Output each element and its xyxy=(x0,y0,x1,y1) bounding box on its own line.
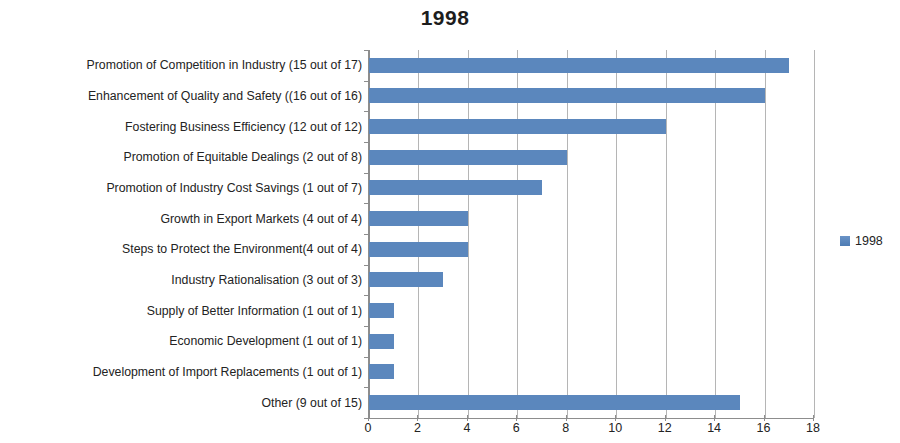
y-tick-mark xyxy=(364,387,369,388)
bar-row xyxy=(369,326,813,357)
y-tick-mark xyxy=(364,173,369,174)
bar[interactable] xyxy=(369,395,740,410)
category-label: Development of Import Replacements (1 ou… xyxy=(0,365,362,379)
y-tick-mark xyxy=(364,50,369,51)
x-axis-line xyxy=(368,418,814,419)
bar-row xyxy=(369,203,813,234)
x-tick-mark-10 xyxy=(615,415,616,421)
category-label: Fostering Business Efficiency (12 out of… xyxy=(0,120,362,134)
bar-row xyxy=(369,357,813,388)
bar[interactable] xyxy=(369,180,542,195)
category-label: Other (9 out of 15) xyxy=(0,396,362,410)
plot-area xyxy=(368,50,813,418)
x-tick-mark-4 xyxy=(467,415,468,421)
y-tick-mark xyxy=(364,111,369,112)
category-label: Supply of Better Information (1 out of 1… xyxy=(0,304,362,318)
category-label: Industry Rationalisation (3 out of 3) xyxy=(0,273,362,287)
legend-swatch-icon xyxy=(840,236,850,246)
bar[interactable] xyxy=(369,88,765,103)
x-tick-mark-14 xyxy=(714,415,715,421)
category-label: Steps to Protect the Environment(4 out o… xyxy=(0,242,362,256)
bar[interactable] xyxy=(369,119,666,134)
gridline-18 xyxy=(814,50,815,418)
x-tick-label-8: 8 xyxy=(562,421,569,435)
bar[interactable] xyxy=(369,211,468,226)
x-tick-mark-8 xyxy=(566,415,567,421)
bar[interactable] xyxy=(369,303,394,318)
y-tick-mark xyxy=(364,142,369,143)
bar-rows xyxy=(369,50,813,418)
x-tick-mark-12 xyxy=(665,415,666,421)
x-tick-label-14: 14 xyxy=(707,421,721,435)
bar[interactable] xyxy=(369,150,567,165)
y-tick-mark xyxy=(364,357,369,358)
category-label: Promotion of Competition in Industry (15… xyxy=(0,58,362,72)
x-axis-tick-labels: 024681012141618 xyxy=(0,421,900,443)
bar[interactable] xyxy=(369,334,394,349)
y-tick-mark xyxy=(364,81,369,82)
bar-row xyxy=(369,265,813,296)
legend: 1998 xyxy=(840,234,883,248)
bar-row xyxy=(369,111,813,142)
x-tick-label-16: 16 xyxy=(757,421,771,435)
category-label: Economic Development (1 out of 1) xyxy=(0,334,362,348)
legend-label: 1998 xyxy=(855,234,883,248)
x-tick-label-2: 2 xyxy=(414,421,421,435)
chart-title: 1998 xyxy=(0,6,900,30)
bar-row xyxy=(369,387,813,418)
bar[interactable] xyxy=(369,364,394,379)
category-label: Promotion of Industry Cost Savings (1 ou… xyxy=(0,181,362,195)
x-tick-label-6: 6 xyxy=(513,421,520,435)
x-tick-mark-0 xyxy=(368,415,369,421)
bar[interactable] xyxy=(369,242,468,257)
y-tick-mark xyxy=(364,265,369,266)
bar-chart: 1998 Promotion of Competition in Industr… xyxy=(0,0,900,443)
bar-row xyxy=(369,81,813,112)
y-tick-mark xyxy=(364,234,369,235)
x-tick-label-18: 18 xyxy=(806,421,820,435)
x-tick-mark-2 xyxy=(417,415,418,421)
bar-row xyxy=(369,173,813,204)
bar-row xyxy=(369,295,813,326)
bar[interactable] xyxy=(369,272,443,287)
bar[interactable] xyxy=(369,58,789,73)
bar-row xyxy=(369,50,813,81)
y-tick-mark xyxy=(364,203,369,204)
chart-title-text: 1998 xyxy=(421,6,470,29)
x-tick-label-10: 10 xyxy=(608,421,622,435)
x-tick-label-4: 4 xyxy=(463,421,470,435)
y-tick-mark xyxy=(364,326,369,327)
x-tick-mark-16 xyxy=(764,415,765,421)
category-label: Promotion of Equitable Dealings (2 out o… xyxy=(0,150,362,164)
x-tick-mark-6 xyxy=(516,415,517,421)
bar-row xyxy=(369,142,813,173)
category-label: Enhancement of Quality and Safety ((16 o… xyxy=(0,89,362,103)
x-tick-label-0: 0 xyxy=(365,421,372,435)
y-tick-mark xyxy=(364,295,369,296)
category-axis-labels: Promotion of Competition in Industry (15… xyxy=(0,50,362,418)
bar-row xyxy=(369,234,813,265)
category-label: Growth in Export Markets (4 out of 4) xyxy=(0,212,362,226)
x-tick-label-12: 12 xyxy=(658,421,672,435)
x-tick-mark-18 xyxy=(813,415,814,421)
